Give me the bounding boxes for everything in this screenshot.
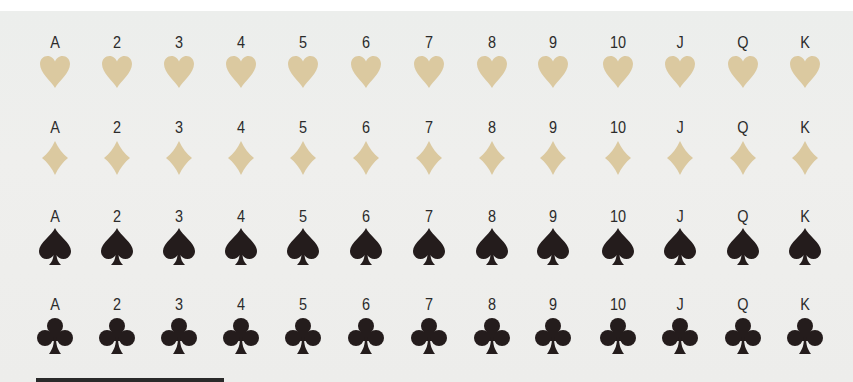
diamond-icon [780, 140, 830, 180]
rank-label: K [784, 207, 827, 227]
heart-icon [341, 55, 391, 93]
card-clubs-2: 2 [92, 295, 142, 359]
diamond-icon [154, 140, 204, 180]
club-icon [404, 317, 454, 359]
rank-label: K [784, 118, 827, 138]
card-clubs-K: K [780, 295, 830, 359]
card-hearts-3: 3 [154, 33, 204, 93]
card-hearts-K: K [780, 33, 830, 93]
card-hearts-8: 8 [467, 33, 517, 93]
diamond-icon [216, 140, 266, 180]
rank-label: Q [722, 33, 765, 53]
club-icon [655, 317, 705, 359]
rank-label: 3 [158, 295, 201, 315]
rank-label: 2 [96, 33, 139, 53]
card-clubs-J: J [655, 295, 705, 359]
card-spades-A: A [30, 207, 80, 271]
card-hearts-7: 7 [404, 33, 454, 93]
card-clubs-3: 3 [154, 295, 204, 359]
heart-icon [528, 55, 578, 93]
diamond-icon [593, 140, 643, 180]
rank-label: 3 [158, 118, 201, 138]
club-icon [278, 317, 328, 359]
card-diamonds-A: A [30, 118, 80, 180]
card-hearts-10: 10 [593, 33, 643, 93]
rank-label: K [784, 33, 827, 53]
rank-label: K [784, 295, 827, 315]
card-diamonds-10: 10 [593, 118, 643, 180]
spade-icon [404, 227, 454, 271]
rank-label: A [34, 118, 77, 138]
rank-label: 2 [96, 207, 139, 227]
card-hearts-Q: Q [718, 33, 768, 93]
spade-icon [154, 227, 204, 271]
card-spades-J: J [655, 207, 705, 271]
rank-label: 10 [597, 33, 640, 53]
card-clubs-9: 9 [528, 295, 578, 359]
bottom-bar [36, 378, 224, 382]
heart-icon [278, 55, 328, 93]
rank-label: 10 [597, 118, 640, 138]
rank-label: 3 [158, 207, 201, 227]
rank-label: J [659, 207, 702, 227]
diamond-icon [467, 140, 517, 180]
rank-label: 8 [471, 207, 514, 227]
heart-icon [467, 55, 517, 93]
spade-icon [655, 227, 705, 271]
card-diamonds-K: K [780, 118, 830, 180]
rank-label: 4 [220, 207, 263, 227]
rank-label: 8 [471, 118, 514, 138]
suit-row-hearts: A2345678910JQK [0, 33, 853, 113]
card-diamonds-Q: Q [718, 118, 768, 180]
rank-label: 9 [532, 207, 575, 227]
club-icon [154, 317, 204, 359]
card-clubs-4: 4 [216, 295, 266, 359]
suit-row-diamonds: A2345678910JQK [0, 118, 853, 198]
rank-label: 7 [408, 33, 451, 53]
card-spades-7: 7 [404, 207, 454, 271]
rank-label: A [34, 33, 77, 53]
card-diamonds-7: 7 [404, 118, 454, 180]
diamond-icon [92, 140, 142, 180]
card-spades-4: 4 [216, 207, 266, 271]
spade-icon [30, 227, 80, 271]
card-hearts-J: J [655, 33, 705, 93]
rank-label: 8 [471, 33, 514, 53]
rank-label: 5 [282, 295, 325, 315]
rank-label: 7 [408, 118, 451, 138]
card-clubs-7: 7 [404, 295, 454, 359]
rank-label: J [659, 33, 702, 53]
card-spades-10: 10 [593, 207, 643, 271]
card-diamonds-8: 8 [467, 118, 517, 180]
rank-label: J [659, 295, 702, 315]
card-hearts-6: 6 [341, 33, 391, 93]
rank-label: 6 [345, 295, 388, 315]
card-clubs-6: 6 [341, 295, 391, 359]
rank-label: 6 [345, 118, 388, 138]
card-spades-3: 3 [154, 207, 204, 271]
rank-label: 4 [220, 118, 263, 138]
rank-label: A [34, 295, 77, 315]
rank-label: 9 [532, 295, 575, 315]
spade-icon [216, 227, 266, 271]
card-spades-2: 2 [92, 207, 142, 271]
suit-row-clubs: A2345678910JQK [0, 295, 853, 375]
card-diamonds-9: 9 [528, 118, 578, 180]
rank-label: 6 [345, 207, 388, 227]
card-diamonds-4: 4 [216, 118, 266, 180]
rank-label: 7 [408, 295, 451, 315]
rank-label: 7 [408, 207, 451, 227]
spade-icon [718, 227, 768, 271]
spade-icon [780, 227, 830, 271]
rank-label: 2 [96, 118, 139, 138]
spade-icon [593, 227, 643, 271]
card-hearts-9: 9 [528, 33, 578, 93]
rank-label: 10 [597, 207, 640, 227]
rank-label: Q [722, 207, 765, 227]
diamond-icon [278, 140, 328, 180]
card-clubs-5: 5 [278, 295, 328, 359]
club-icon [92, 317, 142, 359]
diamond-icon [718, 140, 768, 180]
heart-icon [216, 55, 266, 93]
heart-icon [593, 55, 643, 93]
